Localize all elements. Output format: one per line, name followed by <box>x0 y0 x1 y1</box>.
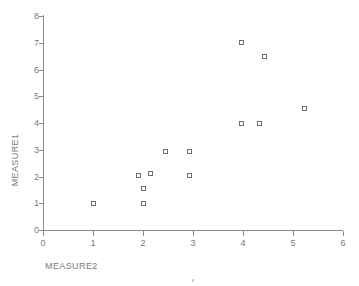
x-tick-label: 2 <box>136 238 150 248</box>
y-tick-label: 5 <box>25 91 39 101</box>
x-tick-mark <box>93 231 94 236</box>
data-point <box>302 106 307 111</box>
y-tick-label: 6 <box>25 65 39 75</box>
data-point <box>262 54 267 59</box>
scan-artifact-mark <box>192 279 194 282</box>
x-tick-mark <box>43 231 44 236</box>
x-tick-label: 4 <box>236 238 250 248</box>
y-tick-label: 8 <box>25 11 39 21</box>
data-point <box>141 186 146 191</box>
y-tick-label: 3 <box>25 145 39 155</box>
data-point <box>136 173 141 178</box>
y-tick-label: 4 <box>25 118 39 128</box>
y-tick-mark <box>39 150 44 151</box>
data-point <box>148 171 153 176</box>
data-point <box>91 201 96 206</box>
data-point <box>187 149 192 154</box>
x-tick-mark <box>293 231 294 236</box>
data-point <box>163 149 168 154</box>
x-tick-label: 0 <box>36 238 50 248</box>
x-tick-mark <box>343 231 344 236</box>
y-tick-label: 1 <box>25 198 39 208</box>
data-point <box>239 40 244 45</box>
x-tick-label: 3 <box>186 238 200 248</box>
data-point <box>141 201 146 206</box>
x-axis-title: MEASURE2 <box>45 261 98 271</box>
y-tick-mark <box>39 203 44 204</box>
y-tick-label: 7 <box>25 38 39 48</box>
y-tick-mark <box>39 123 44 124</box>
x-tick-label: 5 <box>286 238 300 248</box>
data-point <box>239 121 244 126</box>
data-point <box>187 173 192 178</box>
y-tick-label: 0 <box>25 225 39 235</box>
y-tick-mark <box>39 96 44 97</box>
y-tick-mark <box>39 177 44 178</box>
y-tick-mark <box>39 70 44 71</box>
x-tick-label: 1 <box>86 238 100 248</box>
x-tick-label: 6 <box>336 238 350 248</box>
data-point <box>257 121 262 126</box>
x-tick-mark <box>143 231 144 236</box>
scatter-plot: 012345678 0123456 MEASURE1 MEASURE2 <box>0 0 359 286</box>
y-tick-mark <box>39 16 44 17</box>
x-tick-mark <box>193 231 194 236</box>
y-axis-title: MEASURE1 <box>10 120 20 200</box>
y-tick-mark <box>39 43 44 44</box>
y-tick-label: 2 <box>25 172 39 182</box>
x-tick-mark <box>243 231 244 236</box>
